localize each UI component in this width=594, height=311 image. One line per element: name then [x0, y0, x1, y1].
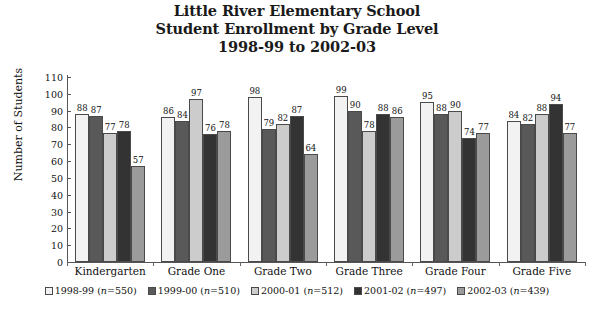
bar[interactable]	[348, 111, 362, 262]
title-line-3: 1998-99 to 2002-03	[0, 38, 594, 56]
bar[interactable]	[217, 131, 231, 262]
bar[interactable]	[304, 154, 318, 262]
bar-value-label: 95	[422, 92, 433, 101]
bar[interactable]	[290, 116, 304, 262]
bar-value-label: 77	[478, 123, 489, 132]
legend-label: 1998-99 (n=550)	[55, 285, 137, 296]
x-axis-category-label: Grade One	[168, 265, 226, 277]
bar[interactable]	[276, 124, 290, 262]
legend-item[interactable]: 1998-99 (n=550)	[45, 285, 137, 296]
bar[interactable]	[334, 96, 348, 263]
bar-value-label: 74	[464, 128, 475, 137]
bar-value-label: 97	[191, 89, 202, 98]
bar-value-label: 82	[277, 114, 288, 123]
x-axis-category-label: Grade Two	[254, 265, 312, 277]
bar-group: 8684977678	[153, 77, 239, 262]
bar[interactable]	[549, 104, 563, 262]
legend-item[interactable]: 2000-01 (n=512)	[251, 285, 343, 296]
bar-value-label: 78	[219, 121, 230, 130]
y-tick-label: 100	[37, 88, 63, 99]
bar-value-label: 88	[436, 104, 447, 113]
bar-value-label: 87	[91, 106, 102, 115]
bar-value-label: 64	[305, 144, 316, 153]
bar[interactable]	[521, 124, 535, 262]
bar[interactable]	[476, 133, 490, 263]
bar[interactable]	[131, 166, 145, 262]
bar[interactable]	[75, 114, 89, 262]
bar-value-label: 86	[392, 107, 403, 116]
legend-item[interactable]: 2002-03 (n=439)	[457, 285, 549, 296]
bar-wrap: 84	[507, 77, 521, 262]
bar-value-label: 79	[263, 119, 274, 128]
bar-wrap: 74	[462, 77, 476, 262]
x-tick-mark	[412, 262, 413, 266]
bar-value-label: 76	[205, 124, 216, 133]
bar-wrap: 90	[448, 77, 462, 262]
bar[interactable]	[117, 131, 131, 262]
legend-swatch	[45, 287, 53, 295]
legend-item[interactable]: 2001-02 (n=497)	[354, 285, 446, 296]
bar-value-label: 84	[508, 111, 519, 120]
bar[interactable]	[248, 97, 262, 262]
bar-group: 8482889477	[499, 77, 585, 262]
bar[interactable]	[189, 99, 203, 262]
y-tick-label: 30	[37, 206, 63, 217]
bar-value-label: 98	[249, 87, 260, 96]
x-tick-mark	[499, 262, 500, 266]
bar-wrap: 64	[304, 77, 318, 262]
bar-wrap: 77	[476, 77, 490, 262]
legend-label: 1999-00 (n=510)	[158, 285, 240, 296]
bar-value-label: 87	[291, 106, 302, 115]
bar-wrap: 77	[103, 77, 117, 262]
bar-wrap: 95	[420, 77, 434, 262]
bar-wrap: 77	[563, 77, 577, 262]
bar-wrap: 94	[549, 77, 563, 262]
bar-value-label: 82	[522, 114, 533, 123]
bar[interactable]	[434, 114, 448, 262]
bar[interactable]	[507, 121, 521, 262]
bar-wrap: 90	[348, 77, 362, 262]
bar[interactable]	[103, 133, 117, 263]
bar[interactable]	[362, 131, 376, 262]
bar[interactable]	[161, 117, 175, 262]
bar[interactable]	[203, 134, 217, 262]
y-axis-title: Number of Students	[12, 55, 25, 195]
bar-wrap: 88	[376, 77, 390, 262]
legend-item[interactable]: 1999-00 (n=510)	[148, 285, 240, 296]
bar-value-label: 90	[450, 101, 461, 110]
bar[interactable]	[89, 116, 103, 262]
bar-group: 9588907477	[412, 77, 498, 262]
bar-wrap: 87	[290, 77, 304, 262]
bar-wrap: 98	[248, 77, 262, 262]
bar-group: 8887777857	[67, 77, 153, 262]
y-tick-label: 40	[37, 189, 63, 200]
y-tick-label: 0	[37, 257, 63, 268]
legend-swatch	[457, 287, 465, 295]
bar[interactable]	[462, 138, 476, 262]
bar-wrap: 78	[362, 77, 376, 262]
bar-wrap: 76	[203, 77, 217, 262]
x-axis-category-label: Grade Five	[512, 265, 571, 277]
bar-value-label: 57	[133, 156, 144, 165]
bar-wrap: 79	[262, 77, 276, 262]
y-tick-label: 110	[37, 72, 63, 83]
bar-value-label: 77	[564, 123, 575, 132]
title-line-2: Student Enrollment by Grade Level	[0, 20, 594, 38]
y-tick-label: 80	[37, 122, 63, 133]
bar[interactable]	[175, 121, 189, 262]
title-line-1: Little River Elementary School	[0, 2, 594, 20]
bar[interactable]	[376, 114, 390, 262]
chart-legend: 1998-99 (n=550)1999-00 (n=510)2000-01 (n…	[0, 285, 594, 296]
legend-swatch	[148, 287, 156, 295]
bar[interactable]	[390, 117, 404, 262]
bar-value-label: 78	[364, 121, 375, 130]
bar[interactable]	[420, 102, 434, 262]
bar-group: 9990788886	[326, 77, 412, 262]
bar[interactable]	[448, 111, 462, 262]
bar-wrap: 99	[334, 77, 348, 262]
bar[interactable]	[563, 133, 577, 263]
bar[interactable]	[262, 129, 276, 262]
y-tick-label: 20	[37, 223, 63, 234]
bar[interactable]	[535, 114, 549, 262]
legend-swatch	[251, 287, 259, 295]
